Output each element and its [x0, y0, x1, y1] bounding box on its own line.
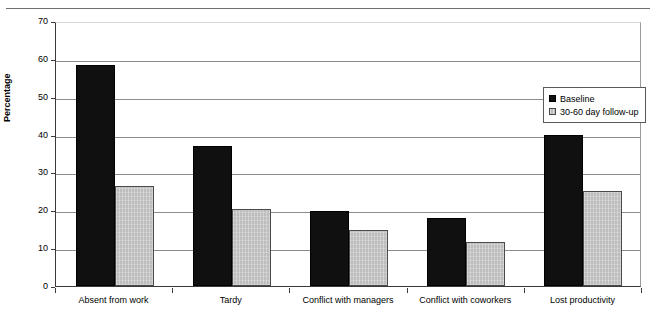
y-tick-label: 30	[26, 167, 48, 177]
y-tick-label: 40	[26, 130, 48, 140]
legend-swatch-icon-followup	[549, 108, 556, 115]
legend-swatch-icon-baseline	[549, 95, 556, 102]
bar-baseline	[544, 135, 583, 286]
bar-followup	[466, 242, 505, 286]
bar-baseline	[310, 211, 349, 286]
x-tick-mark	[289, 288, 290, 293]
x-axis-category-label: Lost productivity	[524, 295, 641, 305]
y-tick-label: 0	[26, 281, 48, 291]
bar-followup	[232, 209, 271, 286]
x-axis-category-label: Absent from work	[55, 295, 172, 305]
chart-page: Percentage 010203040506070 Baseline 30-6…	[0, 0, 656, 322]
legend-item-followup: 30-60 day follow-up	[549, 105, 639, 118]
x-tick-mark	[172, 288, 173, 293]
legend-label-baseline: Baseline	[560, 94, 595, 104]
y-tick-label: 10	[26, 243, 48, 253]
bar-followup	[583, 191, 622, 286]
legend-item-baseline: Baseline	[549, 92, 639, 105]
bar-followup	[349, 230, 388, 286]
x-axis-category-label: Conflict with coworkers	[407, 295, 524, 305]
x-tick-mark	[524, 288, 525, 293]
grouped-bar-chart: Percentage 010203040506070 Baseline 30-6…	[0, 0, 656, 322]
chart-legend: Baseline 30-60 day follow-up	[543, 87, 646, 123]
x-tick-mark	[407, 288, 408, 293]
x-tick-mark	[641, 288, 642, 293]
gridline	[56, 61, 640, 62]
y-tick-label: 50	[26, 92, 48, 102]
bar-baseline	[193, 146, 232, 286]
x-axis-category-label: Conflict with managers	[289, 295, 406, 305]
bar-baseline	[76, 65, 115, 286]
y-tick-label: 20	[26, 205, 48, 215]
plot-area: Baseline 30-60 day follow-up	[55, 22, 641, 287]
legend-label-followup: 30-60 day follow-up	[560, 107, 639, 117]
bar-baseline	[427, 218, 466, 286]
y-tick-label: 70	[26, 16, 48, 26]
bar-followup	[115, 186, 154, 286]
y-tick-label: 60	[26, 54, 48, 64]
y-axis-title: Percentage	[2, 73, 12, 122]
x-tick-mark	[55, 288, 56, 293]
x-axis-category-label: Tardy	[172, 295, 289, 305]
